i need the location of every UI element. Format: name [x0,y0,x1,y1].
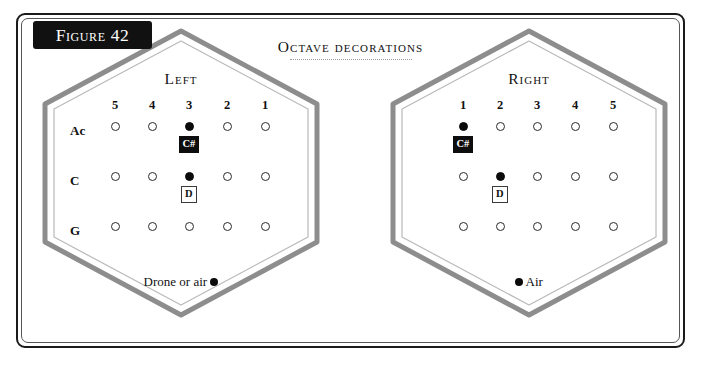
foot-dot-right [515,278,523,286]
hole-right-r1-c4[interactable] [609,172,618,181]
hole-left-r1-c3[interactable] [223,172,232,181]
hole-left-r2-c2[interactable] [185,222,194,231]
note-box-right-1: D [492,186,508,203]
hexagon-left-title: Left [42,70,320,88]
hole-left-r0-c0[interactable] [111,122,120,131]
note-box-left-1: D [181,186,197,203]
hole-right-r0-c0[interactable] [459,122,468,131]
hole-left-r0-c4[interactable] [261,122,270,131]
hexagon-right-foot-note: Air [390,274,668,290]
column-header-right-0: 1 [452,98,474,113]
hole-right-r1-c3[interactable] [571,172,580,181]
column-header-right-3: 4 [564,98,586,113]
column-header-right-2: 3 [526,98,548,113]
hole-left-r2-c4[interactable] [261,222,270,231]
hole-right-r1-c2[interactable] [533,172,542,181]
foot-text-left: Drone or air [144,274,208,289]
foot-dot-left [210,278,218,286]
column-header-right-4: 5 [602,98,624,113]
row-label-left-1: C [70,173,100,189]
figure-number-label: Figure 42 [56,25,130,46]
column-header-left-3: 2 [216,98,238,113]
hole-left-r2-c3[interactable] [223,222,232,231]
hexagon-right-title: Right [390,70,668,88]
column-header-left-1: 4 [141,98,163,113]
column-header-left-2: 3 [178,98,200,113]
caption-dotted-rule [290,59,412,60]
hexagon-right-hole-grid: 12345C#D [390,98,668,278]
row-label-left-2: G [70,223,100,239]
column-header-left-4: 1 [254,98,276,113]
hole-right-r0-c4[interactable] [609,122,618,131]
figure-number-tag: Figure 42 [33,21,152,49]
hole-right-r2-c0[interactable] [459,222,468,231]
hole-right-r0-c2[interactable] [533,122,542,131]
hole-left-r0-c3[interactable] [223,122,232,131]
hole-right-r0-c1[interactable] [496,122,505,131]
hole-right-r2-c4[interactable] [609,222,618,231]
hexagon-right: Right 12345C#D Air [390,28,668,318]
column-header-left-0: 5 [104,98,126,113]
note-box-left-0: C# [179,136,200,153]
hexagon-left-foot-note: Drone or air [42,274,320,290]
foot-text-right: Air [526,274,543,289]
note-box-right-0: C# [453,136,474,153]
hole-left-r1-c2[interactable] [185,172,194,181]
column-header-right-1: 2 [489,98,511,113]
hole-left-r0-c2[interactable] [185,122,194,131]
hole-left-r1-c0[interactable] [111,172,120,181]
hole-right-r2-c3[interactable] [571,222,580,231]
hole-right-r2-c2[interactable] [533,222,542,231]
hole-left-r2-c0[interactable] [111,222,120,231]
hole-left-r2-c1[interactable] [148,222,157,231]
hexagon-left: Left 54321AcCGC#D Drone or air [42,28,320,318]
hole-left-r0-c1[interactable] [148,122,157,131]
hole-right-r1-c1[interactable] [496,172,505,181]
hole-right-r1-c0[interactable] [459,172,468,181]
hole-right-r0-c3[interactable] [571,122,580,131]
hexagon-left-hole-grid: 54321AcCGC#D [42,98,320,278]
hole-left-r1-c4[interactable] [261,172,270,181]
hole-right-r2-c1[interactable] [496,222,505,231]
row-label-left-0: Ac [70,123,100,139]
hole-left-r1-c1[interactable] [148,172,157,181]
caption-title: Octave decorations [278,38,424,56]
